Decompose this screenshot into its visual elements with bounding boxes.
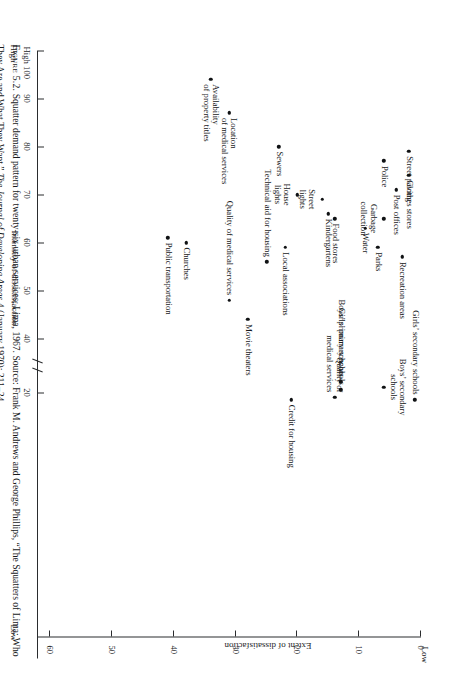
scatter-plot: High 10090807060504020Intensity of dissa… — [0, 0, 456, 677]
intensity-axis-line — [37, 50, 38, 658]
extent-tick — [235, 630, 236, 636]
data-point — [382, 385, 386, 389]
data-point — [413, 397, 417, 401]
data-point — [395, 187, 399, 191]
data-point — [246, 317, 250, 321]
data-point-label: Boys’ secondary schools — [389, 358, 407, 415]
extent-tick — [173, 630, 174, 636]
data-point-label: Movie theaters — [243, 324, 252, 375]
figure-title: Squatter demand pattern for twenty-six u… — [11, 93, 22, 352]
extent-tick — [49, 630, 50, 636]
intensity-tick — [38, 290, 44, 291]
figure-caption: Figure 5.2. Squatter demand pattern for … — [0, 44, 24, 656]
data-point-label: Technical aid for housing — [262, 169, 271, 256]
data-point-label: House lights — [273, 183, 291, 205]
data-point-label: Churches — [182, 247, 191, 279]
extent-tick — [358, 630, 359, 636]
extent-axis-line — [37, 636, 421, 637]
data-point — [327, 211, 331, 215]
data-point-label: Parks — [373, 252, 382, 271]
intensity-tick — [38, 392, 44, 393]
intensity-tick — [38, 242, 44, 243]
source-volume-date: 4 (January 1970): — [0, 302, 6, 370]
data-point-label: Street lights — [298, 189, 316, 209]
data-point-label: Post offices — [392, 194, 401, 234]
data-point-label: Credit for housing — [287, 404, 296, 467]
book-page: High 10090807060504020Intensity of dissa… — [0, 0, 456, 677]
data-point — [228, 298, 232, 302]
data-point — [320, 197, 324, 201]
source-authors: Frank M. Andrews and George Phillips, — [11, 387, 22, 540]
extent-tick-label: 10 — [354, 645, 364, 654]
intensity-tick — [38, 146, 44, 147]
extent-tick — [111, 630, 112, 636]
data-point-label: Sewers — [274, 151, 283, 176]
extent-tick-label: 40 — [169, 645, 179, 654]
intensity-tick — [38, 194, 44, 195]
data-point-label: Recreation areas — [398, 261, 407, 318]
figure-number: Figure 5.2. — [11, 44, 22, 91]
data-point — [401, 255, 405, 259]
data-point — [333, 216, 337, 220]
extent-axis-title: Extent of dissatisfaction — [225, 640, 312, 650]
data-point-label: Availability of property titles — [202, 84, 220, 141]
data-point-label: Quality of medical services — [325, 335, 343, 392]
data-point — [289, 397, 293, 401]
extent-tick — [420, 630, 421, 636]
data-point — [376, 245, 380, 249]
data-point — [333, 395, 337, 399]
data-point — [277, 144, 281, 148]
data-point-label: Location of medical services — [220, 117, 238, 183]
data-point — [228, 111, 232, 115]
data-point — [296, 192, 300, 196]
data-point — [382, 159, 386, 163]
data-point-label: Food stores — [330, 223, 339, 263]
data-point-label: Quality of medical services — [225, 200, 234, 294]
source-journal: The Journal of Developing Areas — [0, 172, 6, 299]
data-point-label: Public transportation — [163, 242, 172, 314]
intensity-tick — [38, 338, 44, 339]
data-point — [382, 216, 386, 220]
extent-tick — [296, 630, 297, 636]
source-pages: 211–24. — [0, 372, 6, 403]
data-point — [283, 245, 287, 249]
intensity-tick — [38, 50, 44, 51]
data-point — [209, 77, 213, 81]
extent-tick-label: 50 — [107, 645, 117, 654]
data-point — [407, 149, 411, 153]
data-point — [407, 173, 411, 177]
data-point-label: Police — [379, 165, 388, 186]
intensity-tick — [38, 98, 44, 99]
data-point — [184, 240, 188, 244]
data-point — [265, 259, 269, 263]
data-point — [166, 235, 170, 239]
data-point-label: Girls’ secondary schools — [410, 310, 419, 394]
extent-low-label: Low — [420, 646, 430, 663]
extent-tick-label: 60 — [45, 645, 55, 654]
data-point-label: Local associations — [281, 252, 290, 315]
data-point-label: Garbage collection — [360, 201, 378, 235]
data-point-label: Clothes stores — [404, 180, 413, 228]
data-point-label: Water — [361, 233, 370, 253]
source-prefix: Source: — [11, 355, 22, 384]
